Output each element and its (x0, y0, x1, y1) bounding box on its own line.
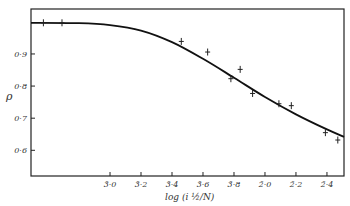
data-point-marker (179, 38, 184, 45)
y-tick-label: 0·9 (14, 50, 27, 59)
x-tick-label: 2̄·4 (320, 180, 334, 189)
y-axis-label: ρ (5, 90, 13, 103)
data-point-marker (59, 19, 64, 26)
y-tick-label: 0·6 (14, 146, 27, 155)
x-tick-label: 3̄·6 (197, 180, 210, 189)
x-tick-label: 3̄·0 (104, 180, 117, 189)
x-axis-label: log (i ½/N) (165, 192, 215, 202)
data-point-marker (238, 66, 243, 73)
data-point-marker (205, 49, 210, 56)
data-point-marker (335, 137, 340, 144)
x-axis: 3̄·03̄·23̄·43̄·63̄·82̄·02̄·22̄·4 (104, 172, 334, 189)
x-tick-label: 3̄·8 (228, 180, 241, 189)
fitted-curve (31, 23, 344, 137)
y-tick-label: 0·7 (14, 114, 28, 123)
x-tick-label: 2̄·0 (258, 180, 272, 189)
data-points (41, 19, 340, 143)
y-tick-label: 0·8 (14, 82, 27, 91)
data-point-marker (289, 102, 294, 109)
data-point-marker (41, 19, 46, 26)
x-tick-label: 2̄·2 (289, 180, 303, 189)
x-tick-label: 3̄·4 (166, 180, 179, 189)
chart: 0·90·80·70·6 3̄·03̄·23̄·43̄·63̄·82̄·02̄·… (0, 0, 350, 206)
plot-frame (31, 9, 344, 176)
x-tick-label: 3̄·2 (135, 180, 148, 189)
y-axis: 0·90·80·70·6 (14, 50, 35, 155)
